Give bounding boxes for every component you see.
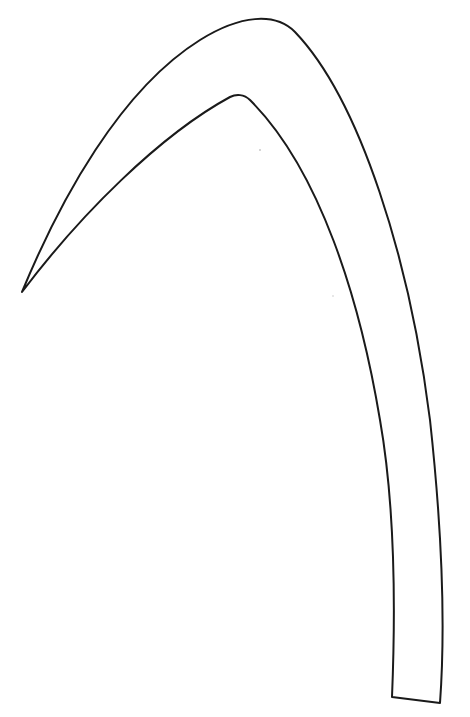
horn-outline-shape — [22, 19, 443, 703]
horn-outline-drawing — [0, 0, 470, 717]
paper-speck — [332, 295, 334, 297]
drawing-canvas — [0, 0, 470, 717]
paper-speck — [259, 149, 261, 151]
